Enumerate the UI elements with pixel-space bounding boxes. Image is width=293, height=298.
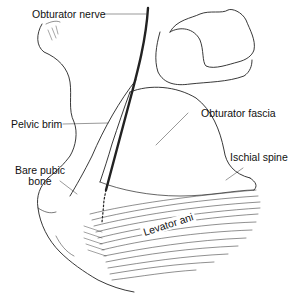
label-pelvic-brim: Pelvic brim <box>11 119 62 130</box>
label-ischial-spine: Ischial spine <box>230 152 288 163</box>
anatomy-drawing <box>0 0 293 298</box>
label-bare-pubic-bone: Bare pubic bone <box>14 165 66 187</box>
label-bare-pubic-bone-line2: bone <box>14 176 66 187</box>
label-obturator-nerve: Obturator nerve <box>32 9 106 20</box>
label-obturator-fascia: Obturator fascia <box>201 108 276 119</box>
pelvic-anatomy-diagram: Obturator nerve Pelvic brim Obturator fa… <box>0 0 293 298</box>
